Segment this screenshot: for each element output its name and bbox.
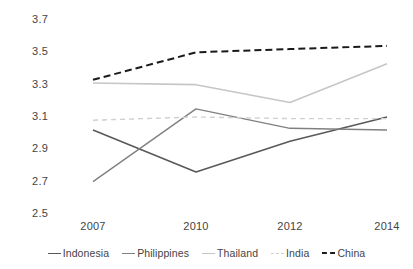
y-tick-label: 3.7 — [32, 14, 48, 25]
x-tick-label: 2010 — [183, 221, 208, 232]
line-chart: 3.73.53.33.12.92.72.5 2007201020122014 I… — [0, 0, 413, 269]
legend-label: Philippines — [137, 248, 189, 259]
legend-item-india[interactable]: India — [271, 248, 309, 259]
legend-swatch-icon — [322, 252, 335, 254]
y-tick-label: 2.7 — [32, 176, 48, 187]
legend-label: India — [286, 248, 309, 259]
y-tick-label: 3.1 — [32, 111, 48, 122]
legend-label: China — [337, 248, 365, 259]
y-tick-label: 2.5 — [32, 208, 48, 219]
legend-item-china[interactable]: China — [322, 248, 365, 259]
legend-swatch-icon — [122, 253, 135, 254]
legend-item-indonesia[interactable]: Indonesia — [48, 248, 109, 259]
x-tick-label: 2012 — [277, 221, 302, 232]
x-tick-label: 2014 — [374, 221, 399, 232]
y-axis: 3.73.53.33.12.92.72.5 — [0, 0, 60, 240]
legend-label: Thailand — [217, 248, 258, 259]
legend-swatch-icon — [48, 253, 61, 254]
chart-legend: IndonesiaPhilippinesThailandIndiaChina — [0, 243, 413, 263]
legend-item-thailand[interactable]: Thailand — [202, 248, 258, 259]
y-tick-label: 3.5 — [32, 46, 48, 57]
x-axis: 2007201020122014 — [0, 221, 413, 237]
series-line-indonesia — [93, 117, 387, 172]
x-tick-label: 2007 — [80, 221, 105, 232]
series-line-china — [93, 46, 387, 80]
y-tick-label: 2.9 — [32, 143, 48, 154]
legend-swatch-icon — [271, 253, 284, 254]
series-line-thailand — [93, 64, 387, 103]
legend-swatch-icon — [202, 253, 215, 254]
series-line-philippines — [93, 109, 387, 182]
legend-label: Indonesia — [63, 248, 109, 259]
legend-item-philippines[interactable]: Philippines — [122, 248, 189, 259]
series-line-india — [93, 117, 387, 120]
y-tick-label: 3.3 — [32, 79, 48, 90]
